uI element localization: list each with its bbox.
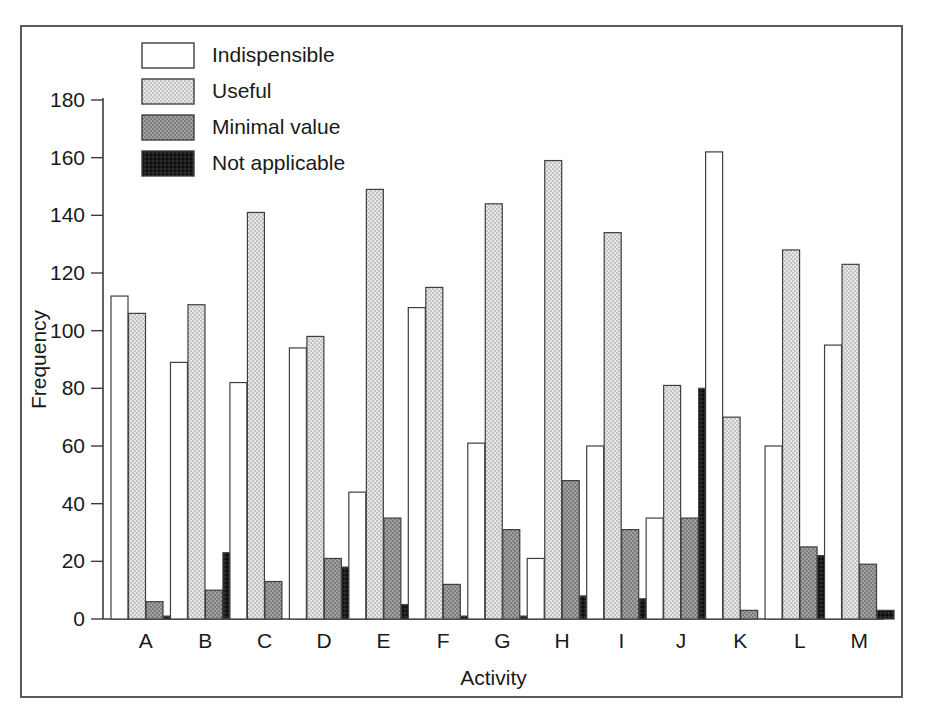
figure-frame: [20, 25, 903, 698]
